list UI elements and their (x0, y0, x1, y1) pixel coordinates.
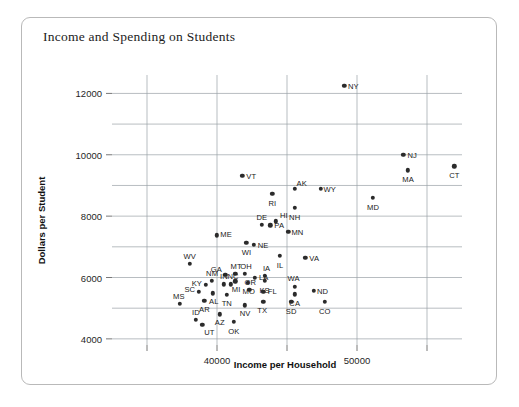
data-point-label: IL (277, 261, 284, 270)
data-point-label: AK (297, 178, 307, 187)
y-tick-label: 4000 (64, 333, 102, 344)
x-tick-label: 50000 (344, 355, 370, 366)
data-point-label: NV (240, 309, 251, 318)
data-point-label: NC (227, 272, 238, 281)
data-point-label: VA (309, 253, 319, 262)
y-tick-label: 6000 (64, 272, 102, 283)
data-point-label: TX (257, 306, 267, 315)
data-point-label: NY (348, 81, 359, 90)
data-point-label: MT (231, 261, 242, 270)
chart-title: Income and Spending on Students (43, 29, 235, 45)
data-point-label: ME (220, 230, 232, 239)
y-tick-label: 8000 (64, 211, 102, 222)
data-point-label: ND (317, 287, 328, 296)
data-point-label: ID (192, 307, 200, 316)
data-point-label: NE (258, 240, 269, 249)
data-point-label: AZ (215, 318, 225, 327)
data-point-label: NJ (407, 150, 416, 159)
data-point-label: MD (367, 202, 379, 211)
y-tick-label: 12000 (64, 88, 102, 99)
data-point-label: PA (274, 221, 284, 230)
data-point-label: OH (240, 261, 252, 270)
data-point-label: WY (323, 184, 335, 193)
data-point-label: MS (173, 291, 185, 300)
data-point-label: MN (291, 228, 303, 237)
y-axis-title: Dollars per Student (36, 161, 47, 281)
data-point-label: NH (289, 212, 300, 221)
chart-card (21, 17, 497, 385)
data-point-label: SC (184, 284, 195, 293)
data-point-label: WA (288, 273, 300, 282)
data-point-label: OR (244, 277, 256, 286)
data-point-label: DE (256, 212, 267, 221)
data-point-label: WV (183, 251, 195, 260)
y-tick-label: 10000 (64, 149, 102, 160)
data-point-label: AL (209, 297, 219, 306)
data-point-label: OK (228, 326, 239, 335)
x-tick-label: 40000 (204, 355, 230, 366)
chart-page: Income and Spending on Students Dollars … (0, 0, 519, 407)
data-point-label: SD (286, 307, 297, 316)
data-point-label: AR (199, 304, 210, 313)
data-point-label: CT (449, 171, 459, 180)
data-point-label: NM (206, 268, 218, 277)
data-point-label: VT (246, 171, 256, 180)
data-point-label: WI (242, 247, 251, 256)
data-point-label: MI (232, 285, 241, 294)
x-axis-title: Income per Household (234, 359, 336, 370)
data-point-label: UT (204, 328, 214, 337)
data-point-label: CO (319, 307, 331, 316)
data-point-label: TN (222, 298, 232, 307)
data-point-label: MA (402, 175, 414, 184)
data-point-label: HI (280, 211, 288, 220)
data-point-label: RI (268, 199, 276, 208)
data-point-label: FL (268, 286, 277, 295)
